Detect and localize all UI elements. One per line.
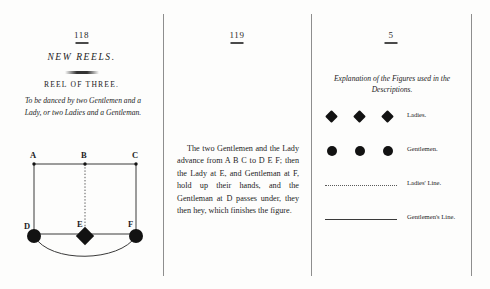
panel-reel-of-three: 118 NEW REELS. REEL OF THREE. To be danc…	[0, 0, 163, 289]
legend-label-ladies: Ladies.	[407, 111, 426, 118]
svg-text:A: A	[30, 150, 37, 160]
circle-icon	[327, 146, 337, 156]
ladies-symbols	[327, 110, 399, 128]
legend-row-gentlemens-line: Gentlemen's Line.	[311, 212, 471, 246]
folio-5: 5	[311, 30, 471, 40]
legend-label-gentlemens-line: Gentlemen's Line.	[407, 213, 455, 220]
page-title-new-reels: NEW REELS.	[0, 52, 163, 62]
legend-label-ladies-line: Ladies' Line.	[407, 179, 441, 186]
panel-legend: 5 Explanation of the Figures used in the…	[311, 0, 471, 289]
ornamental-divider	[65, 71, 99, 74]
gentlemen-symbols	[327, 144, 399, 162]
svg-text:F: F	[128, 219, 133, 229]
scanned-page: 118 NEW REELS. REEL OF THREE. To be danc…	[0, 0, 490, 289]
reel-of-three-diagram: A B C D E F	[20, 148, 150, 273]
reel-description: To be danced by two Gentlemen and a Lady…	[22, 95, 144, 118]
folio-underline	[75, 42, 88, 44]
legend-label-gentlemen: Gentlemen.	[407, 145, 438, 152]
legend-title: Explanation of the Figures used in the D…	[321, 73, 463, 95]
legend-row-ladies: Ladies.	[311, 110, 471, 144]
solid-line-icon	[325, 219, 397, 220]
diamond-icon	[325, 110, 338, 123]
folio-118: 118	[0, 30, 163, 40]
svg-text:B: B	[81, 150, 87, 160]
section-heading-reel-of-three: REEL OF THREE.	[0, 80, 163, 89]
diamond-icon	[381, 110, 394, 123]
panel-description: 119 The two Gentlemen and the Lady advan…	[163, 0, 311, 289]
circle-icon	[355, 146, 365, 156]
folio-underline	[385, 42, 398, 44]
svg-text:E: E	[77, 219, 83, 229]
legend-list: Ladies. Gentlemen. Ladies' Line. Gentlem…	[311, 110, 471, 246]
paragraph-text: The two Gentlemen and the Lady advance f…	[177, 144, 299, 215]
diamond-icon	[353, 110, 366, 123]
svg-text:C: C	[132, 150, 138, 160]
svg-text:D: D	[24, 221, 30, 231]
reel-instructions-paragraph: The two Gentlemen and the Lady advance f…	[177, 143, 299, 217]
legend-row-ladies-line: Ladies' Line.	[311, 178, 471, 212]
folio-underline	[231, 42, 244, 44]
circle-icon	[383, 146, 393, 156]
legend-row-gentlemen: Gentlemen.	[311, 144, 471, 178]
dotted-line-icon	[325, 185, 397, 186]
column-divider-far-right	[471, 14, 472, 276]
folio-119: 119	[163, 30, 311, 40]
